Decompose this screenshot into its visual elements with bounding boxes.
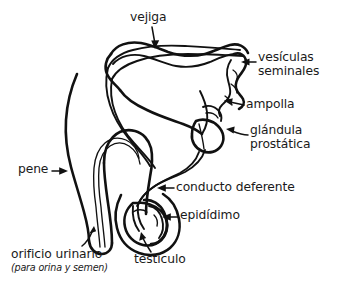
leader-glandula-prostatica [226, 126, 248, 135]
seminal-vesicles-shape [219, 53, 246, 116]
label-glandula-prostatica: glándulaprostática [250, 124, 310, 151]
leader-conducto-deferente [157, 184, 174, 191]
label-orificio-urinario-main: orificio urinario [11, 248, 108, 262]
leader-vesiculas-seminales [241, 58, 256, 65]
label-pene: pene [18, 163, 48, 177]
label-testiculo: testículo [134, 253, 186, 267]
label-vesiculas-seminales: vesículasseminales [258, 51, 319, 78]
label-glandula-prostatica-line2: prostática [250, 138, 310, 152]
prostate-gland-shape [192, 120, 224, 153]
leader-testiculo [139, 232, 151, 252]
label-orificio-urinario: orificio urinario(para orina y semen) [11, 248, 108, 273]
label-vesiculas-seminales-line1: vesículas [258, 51, 319, 65]
label-vesiculas-seminales-line2: seminales [258, 65, 319, 79]
label-conducto-deferente: conducto deferente [176, 181, 295, 195]
bladder-shape [106, 42, 248, 134]
label-ampolla: ampolla [246, 98, 295, 112]
label-epididimo: epidídimo [180, 209, 240, 223]
anatomy-diagram: vejiga vesículasseminales ampolla glándu… [0, 0, 337, 291]
label-glandula-prostatica-line1: glándula [250, 124, 310, 138]
label-vejiga: vejiga [130, 11, 166, 25]
label-orificio-urinario-note: (para orina y semen) [11, 262, 108, 273]
leader-pene [52, 167, 68, 174]
